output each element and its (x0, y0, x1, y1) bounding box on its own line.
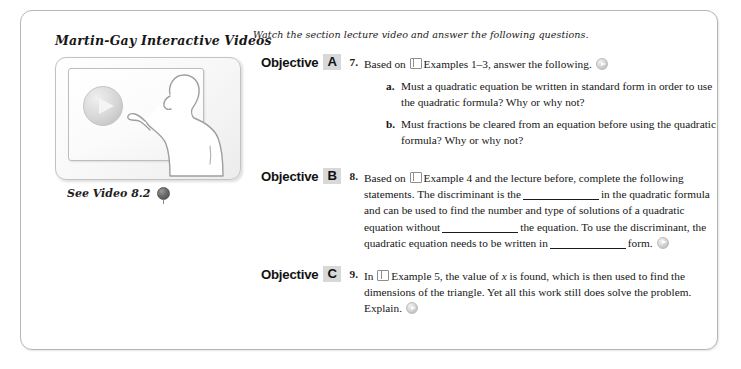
subparts-list: a. Must a quadratic equation be written … (364, 78, 723, 148)
question-number: 9. (341, 265, 358, 280)
question-body: Based on Examples 1–3, answer the follow… (358, 53, 723, 153)
objective-letter-badge: B (323, 168, 341, 184)
play-video-icon[interactable] (657, 237, 669, 249)
fill-in-blank-3[interactable] (550, 248, 626, 249)
question-text-before-icon: Based on (364, 172, 406, 184)
video-section: Martin-Gay Interactive Videos See Video … (55, 33, 251, 200)
objective-letter-badge: C (323, 266, 341, 282)
question-text-before-icon: In (364, 270, 373, 282)
example-monitor-icon (377, 270, 389, 281)
objective-tag-b: Objective B (253, 167, 341, 184)
question-number: 8. (341, 167, 358, 182)
subpart-item: b. Must fractions be cleared from an equ… (386, 116, 723, 148)
play-video-icon[interactable] (596, 58, 608, 70)
instructor-silhouette-icon (114, 72, 232, 180)
objective-tag-c: Objective C (253, 265, 341, 282)
instruction-text: Watch the section lecture video and answ… (253, 29, 723, 40)
exercise-item-8: Objective B 8. Based on Example 4 and th… (253, 167, 723, 251)
objective-label: Objective (261, 267, 319, 282)
exercises-section: Watch the section lecture video and answ… (253, 29, 723, 317)
question-text-before-icon: Based on (364, 58, 406, 70)
example-monitor-icon (410, 172, 422, 183)
see-video-label: See Video 8.2 (67, 187, 150, 200)
question-text-after-icon: Examples 1–3, answer the following. (424, 58, 592, 70)
fill-in-blank-2[interactable] (442, 232, 518, 233)
video-thumbnail[interactable] (55, 57, 241, 180)
interactive-videos-panel: Martin-Gay Interactive Videos See Video … (20, 10, 718, 350)
video-ball-icon (157, 187, 170, 200)
exercise-item-9: Objective C 9. In Example 5, the value o… (253, 265, 723, 317)
objective-tag-a: Objective A (253, 53, 341, 70)
subpart-label: b. (386, 116, 401, 132)
question-text-after-icon-a: Example 5, the value of (391, 270, 499, 282)
objective-letter-badge: A (323, 54, 341, 70)
subpart-text: Must a quadratic equation be written in … (401, 78, 723, 110)
see-video-caption-row: See Video 8.2 (55, 187, 251, 200)
variable-x: x (502, 270, 507, 282)
example-monitor-icon (410, 58, 422, 69)
subpart-text: Must fractions be cleared from an equati… (401, 116, 723, 148)
question-body: In Example 5, the value of x is found, w… (358, 265, 723, 317)
subpart-item: a. Must a quadratic equation be written … (386, 78, 723, 110)
question-text-segment-4: form. (628, 237, 653, 249)
objective-label: Objective (261, 55, 319, 70)
subpart-label: a. (386, 78, 401, 94)
video-section-heading: Martin-Gay Interactive Videos (55, 33, 251, 48)
question-number: 7. (341, 53, 358, 68)
objective-label: Objective (261, 169, 319, 184)
exercise-item-7: Objective A 7. Based on Examples 1–3, an… (253, 53, 723, 153)
fill-in-blank-1[interactable] (523, 199, 599, 200)
question-body: Based on Example 4 and the lecture befor… (358, 167, 723, 251)
play-video-icon[interactable] (406, 302, 418, 314)
